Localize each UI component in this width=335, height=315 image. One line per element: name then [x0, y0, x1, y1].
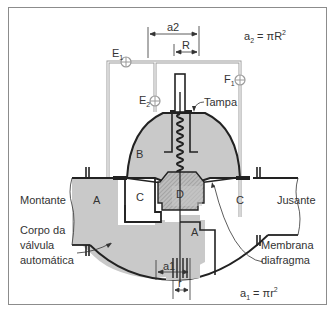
- chamber-label-a-bottom: A: [191, 226, 199, 238]
- chamber-label-c-right: C: [236, 194, 244, 206]
- chamber-label-a-left: A: [93, 194, 101, 206]
- callout-membrana-1: Membrana: [261, 239, 314, 251]
- dimension-r-lower: r: [178, 277, 182, 289]
- valve-diagram: a2 = πR2 a1 = πr2 a2 R a1 r E1 E2 F1 A A…: [0, 0, 335, 315]
- pilot-valve-e2[interactable]: [150, 96, 160, 106]
- pilot-valve-f1[interactable]: [235, 75, 245, 85]
- dimension-r-upper: R: [182, 39, 190, 51]
- callout-montante: Montante: [20, 194, 66, 206]
- chamber-label-d: D: [176, 188, 184, 200]
- chamber-label-b: B: [136, 148, 143, 160]
- callout-tampa: Tampa: [204, 96, 238, 108]
- chamber-label-c-left: C: [136, 191, 144, 203]
- callout-membrana-2: diafragma: [261, 254, 311, 266]
- formula-a1: a1 = πr2: [240, 286, 278, 301]
- callout-jusante: Jusante: [277, 194, 316, 206]
- dimension-a1: a1: [163, 260, 175, 272]
- callout-corpo-2: válvula: [20, 239, 55, 251]
- callout-corpo-3: automática: [20, 254, 75, 266]
- dimension-a2: a2: [167, 21, 179, 33]
- callout-corpo-1: Corpo da: [20, 224, 66, 236]
